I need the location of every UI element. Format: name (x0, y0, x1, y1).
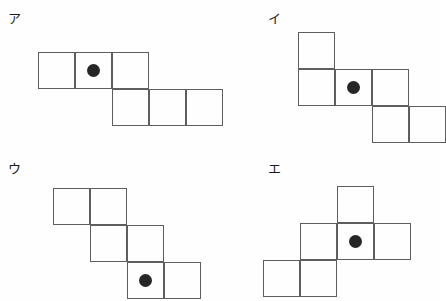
net-square (372, 106, 409, 143)
net-square (53, 188, 90, 225)
figure-label-u: ウ (8, 162, 21, 175)
figure-option-a[interactable]: ア (0, 0, 220, 150)
net-square (263, 260, 300, 297)
net-square (337, 186, 374, 223)
marked-face-dot (349, 235, 362, 248)
net-square (38, 52, 75, 89)
net-square (112, 89, 149, 126)
figure-option-e[interactable]: エ (260, 150, 440, 301)
net-square (300, 223, 337, 260)
net-square (374, 223, 411, 260)
figure-label-a: ア (8, 12, 21, 25)
figure-option-u[interactable]: ウ (0, 150, 220, 301)
figure-label-e: エ (268, 162, 281, 175)
figure-label-i: イ (268, 12, 281, 25)
net-square (90, 188, 127, 225)
net-square (372, 69, 409, 106)
net-square (409, 106, 446, 143)
marked-face-dot (139, 274, 152, 287)
net-square (164, 262, 201, 299)
net-square (298, 32, 335, 69)
net-square (112, 52, 149, 89)
net-square (149, 89, 186, 126)
net-square (298, 69, 335, 106)
marked-face-dot (347, 81, 360, 94)
figure-option-i[interactable]: イ (260, 0, 440, 150)
net-square (300, 260, 337, 297)
net-square (90, 225, 127, 262)
marked-face-dot (87, 64, 100, 77)
net-square (127, 225, 164, 262)
net-square (186, 89, 223, 126)
